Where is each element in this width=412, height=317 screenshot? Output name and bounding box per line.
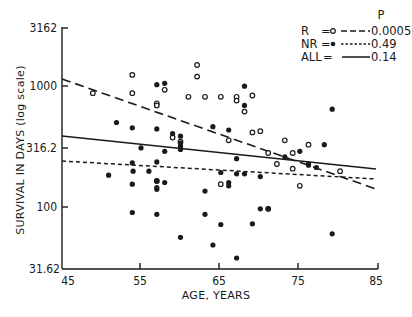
nr-data-point	[322, 142, 327, 147]
legend-r-label: R	[301, 24, 309, 38]
nr-data-point	[114, 120, 119, 125]
r-data-point	[290, 151, 295, 156]
nr-data-point	[202, 212, 207, 217]
nr-data-point	[226, 183, 231, 188]
x-tick-45: 45	[61, 274, 75, 288]
y-tick-100: 100	[36, 200, 57, 214]
x-axis-title: AGE, YEARS	[182, 289, 251, 302]
legend-all-eq: =	[323, 50, 333, 64]
r-data-point	[306, 142, 311, 147]
r-data-point	[91, 91, 96, 96]
r-data-point	[219, 95, 224, 100]
legend-nr-p: 0.49	[371, 37, 397, 51]
nr-data-point	[242, 171, 247, 176]
y-tick-3162: 3162	[30, 21, 57, 35]
r-data-point	[162, 88, 167, 93]
nr-data-point	[226, 127, 231, 132]
r-data-point	[266, 151, 271, 156]
r-data-point	[283, 138, 288, 143]
nr-data-point	[258, 174, 263, 179]
nr-data-point	[178, 147, 183, 152]
nr-data-point	[154, 126, 159, 131]
nr-data-point	[330, 107, 335, 112]
r-data-point	[130, 91, 135, 96]
r-data-point	[186, 95, 191, 100]
r-data-point	[250, 93, 255, 98]
nr-data-point	[306, 163, 311, 168]
r-data-point	[242, 109, 247, 114]
legend-r-p: 0.0005	[371, 24, 411, 38]
r-data-point	[226, 138, 231, 143]
nr-data-point	[106, 173, 111, 178]
r-data-point	[195, 63, 200, 68]
legend-open-circle-icon	[331, 29, 336, 34]
legend-filled-circle-icon	[331, 42, 336, 47]
scatter-chart: 3162 1000 316.2 100 31.62 45 55 65 75 85…	[0, 0, 412, 317]
legend-nr-label: NR	[301, 37, 318, 51]
nr-data-point	[130, 182, 135, 187]
nr-data-point	[146, 169, 151, 174]
y-tick-1000: 1000	[30, 79, 58, 93]
nr-data-point	[130, 160, 135, 165]
nr-data-point	[210, 124, 215, 129]
nr-data-point	[218, 222, 223, 227]
y-axis-title: SURVIVAL IN DAYS (log scale)	[14, 65, 27, 235]
nr-data-point	[170, 131, 175, 136]
r-data-point	[203, 95, 208, 100]
r-data-point	[258, 129, 263, 134]
nr-data-point	[138, 145, 143, 150]
nr-data-point	[210, 242, 215, 247]
nr-data-point	[330, 231, 335, 236]
nr-data-point	[282, 154, 287, 159]
x-tick-65: 65	[212, 274, 226, 288]
nr-data-point	[130, 125, 135, 130]
nr-data-point	[258, 206, 263, 211]
r-data-point	[250, 130, 255, 135]
legend-all-p: 0.14	[371, 50, 397, 64]
nr-data-point	[314, 165, 319, 170]
nr-data-point	[162, 180, 167, 185]
nr-data-point	[234, 156, 239, 161]
r-data-point	[219, 182, 224, 187]
nr-data-point	[154, 187, 159, 192]
y-tick-316: 316.2	[26, 141, 57, 155]
nr-data-point	[266, 206, 271, 211]
r-data-point	[298, 184, 303, 189]
nr-data-point	[162, 81, 167, 86]
nr-data-point	[234, 171, 239, 176]
nr-data-point	[130, 210, 135, 215]
nr-data-point	[297, 149, 302, 154]
nr-data-point	[242, 103, 247, 108]
nr-data-point	[154, 212, 159, 217]
x-tick-labels: 45 55 65 75 85	[61, 274, 383, 288]
nr-data-point	[162, 149, 167, 154]
x-tick-85: 85	[369, 274, 383, 288]
y-tick-labels: 3162 1000 316.2 100 31.62	[26, 21, 60, 276]
legend-nr-eq: =	[321, 37, 331, 51]
r-data-point	[338, 169, 343, 174]
r-data-point	[234, 98, 239, 103]
y-tick-31: 31.62	[29, 262, 60, 276]
nr-data-point	[218, 170, 223, 175]
nr-data-point	[242, 84, 247, 89]
nr-data-point	[234, 255, 239, 260]
r-data-point	[290, 166, 295, 171]
x-tick-75: 75	[291, 274, 305, 288]
nr-data-point	[202, 189, 207, 194]
all-fit-line	[62, 136, 376, 169]
r-data-point	[275, 162, 280, 167]
legend-r-eq: =	[321, 24, 331, 38]
nr-data-point	[250, 221, 255, 226]
nr-data-point	[178, 235, 183, 240]
x-tick-55: 55	[133, 274, 147, 288]
nr-data-point	[154, 82, 159, 87]
r-data-point	[130, 73, 135, 78]
legend: P R = 0.0005 NR = 0.49 ALL = 0.14	[301, 8, 411, 64]
nr-data-point	[154, 159, 159, 164]
r-data-point	[195, 74, 200, 79]
r-data-point	[155, 103, 160, 108]
legend-all-label: ALL	[301, 50, 322, 64]
nr-data-point	[178, 134, 183, 139]
nr-data-point	[131, 169, 136, 174]
legend-header: P	[378, 8, 385, 22]
